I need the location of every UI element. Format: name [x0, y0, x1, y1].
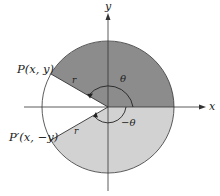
upper-shaded-sector	[51, 41, 174, 107]
point-p-prime-label: P′(x, −y)	[8, 130, 58, 144]
radius-label-lower: r	[74, 126, 79, 136]
lower-shaded-sector	[51, 107, 174, 173]
x-axis-arrow-icon	[199, 105, 206, 110]
y-axis-label: y	[104, 0, 112, 13]
theta-label: θ	[120, 73, 126, 84]
x-axis-label: x	[209, 100, 216, 113]
neg-theta-label: −θ	[121, 117, 135, 128]
point-p-label: P(x, y)	[16, 62, 54, 76]
radius-label-upper: r	[72, 75, 77, 85]
reflection-angle-diagram: y x P(x, y) P′(x, −y) r r θ −θ	[0, 0, 220, 196]
y-axis-arrow-icon	[106, 13, 111, 20]
